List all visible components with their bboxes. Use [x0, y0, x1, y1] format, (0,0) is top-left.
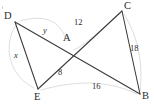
stray-mark	[2, 6, 3, 9]
measure-label-ca: 12	[74, 18, 83, 27]
segment-d-e	[15, 22, 38, 89]
geometry-figure: D C A E B y x 8 12 16 18	[0, 0, 154, 107]
vertex-label-c: C	[124, 1, 131, 12]
vertex-label-e: E	[34, 92, 40, 103]
vertex-label-d: D	[4, 11, 12, 22]
measure-label-da: y	[43, 26, 47, 35]
arc-e-b-icon	[41, 83, 137, 94]
measure-label-ea: 8	[58, 68, 62, 77]
measure-label-cb: 18	[130, 44, 139, 53]
measure-label-ab: 16	[92, 82, 101, 91]
measure-label-de: x	[14, 51, 18, 60]
arc-d-e-icon	[9, 25, 34, 88]
vertex-label-b: B	[142, 91, 149, 102]
vertex-label-a: A	[63, 33, 71, 44]
